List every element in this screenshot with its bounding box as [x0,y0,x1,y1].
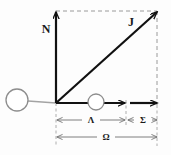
vector-J [56,12,157,103]
node-circle-middle-node [88,94,104,110]
node-circle-left-node [6,89,28,111]
vector-arrows [56,12,157,103]
vector-force-diagram: ΛΣΩ N J [0,0,171,155]
dimension-sigma-label: Σ [140,115,146,125]
dimension-omega-label: Ω [102,132,109,142]
label-vector-j: J [128,15,134,29]
dimension-lambda-label: Λ [88,115,95,125]
diagram-canvas: ΛΣΩ N J [0,0,171,155]
dimension-lines: ΛΣΩ [57,115,157,142]
left-tether-line [28,101,56,103]
label-vector-n: N [42,22,51,36]
